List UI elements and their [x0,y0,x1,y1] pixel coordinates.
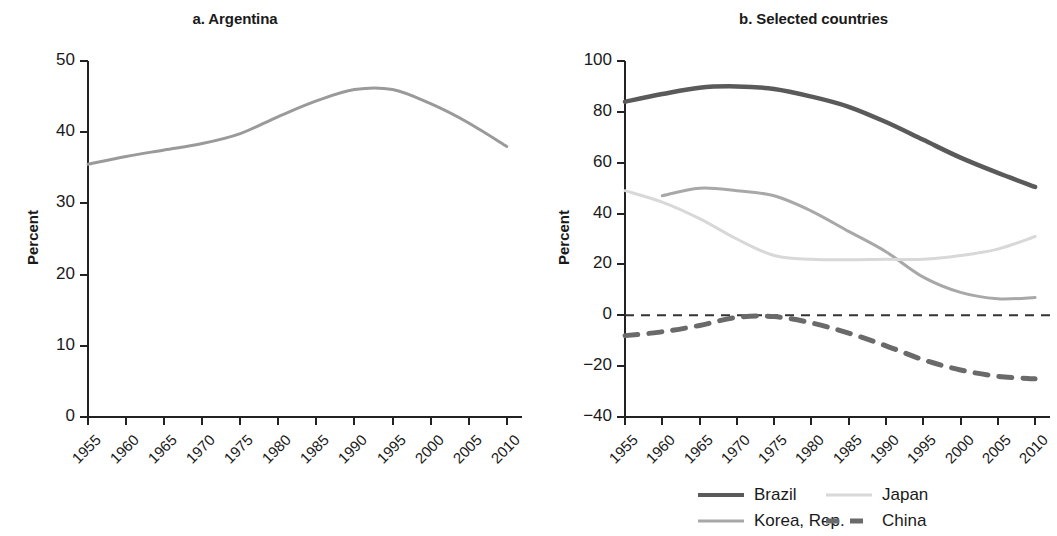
panel-argentina: a. Argentina Percent 0102030405019551960… [0,0,530,536]
y-tick-label: 0 [66,406,75,426]
series-line-brazil [625,86,1035,187]
series-line-japan [625,191,1035,260]
y-tick-label: 100 [584,50,612,70]
panel-selected-countries: b. Selected countries −40−20020406080100… [530,0,1057,536]
y-tick-label: 40 [56,121,75,141]
y-axis-label-panel-b: Percent [555,210,572,265]
y-tick-label: −40 [583,406,612,426]
series-line-korea-rep [662,188,1035,299]
legend-swatch-korea [697,516,745,526]
y-tick-label: 60 [593,152,612,172]
y-tick-label: 40 [593,203,612,223]
legend-label-japan: Japan [882,485,928,505]
y-tick-label: 20 [56,264,75,284]
y-tick-label: 50 [56,50,75,70]
y-tick-label: 0 [603,304,612,324]
legend-swatch-brazil [697,490,745,500]
figure-root: a. Argentina Percent 0102030405019551960… [0,0,1057,536]
legend-item-korea[interactable]: Korea, Rep. [697,511,825,531]
y-tick-label: 80 [593,101,612,121]
y-tick-label: 20 [593,253,612,273]
y-tick-label: −20 [583,355,612,375]
series-line-china [625,316,1035,379]
legend-label-brazil: Brazil [754,485,797,505]
legend-swatch-china [825,516,873,526]
legend-item-japan[interactable]: Japan [825,485,1027,505]
series-line-argentina [88,88,507,164]
legend-label-china: China [882,511,926,531]
legend-item-brazil[interactable]: Brazil [697,485,825,505]
legend-swatch-japan [825,490,873,500]
y-tick-label: 30 [56,192,75,212]
y-tick-label: 10 [56,335,75,355]
legend-item-china[interactable]: China [825,511,1027,531]
legend: Brazil Japan Korea, Rep. China [697,482,1027,534]
